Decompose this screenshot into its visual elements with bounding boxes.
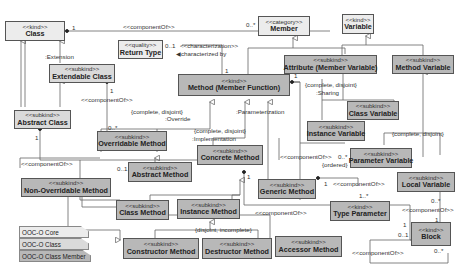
component-of-label: <<componentOf>> xyxy=(333,181,385,187)
multiplicity-label: 0..* xyxy=(431,198,440,204)
box-name: Class Variable xyxy=(349,110,398,118)
component-of-label: <<componentOf>> xyxy=(280,154,332,160)
legend-class-member: OOC-O Class Member xyxy=(19,250,91,262)
parameter-variable-box[interactable]: <<subkind>> Parameter Variable xyxy=(350,148,412,168)
instance-method-box[interactable]: <<subkind>> Instance Method xyxy=(177,199,240,219)
local-variable-box[interactable]: <<subkind>> Local Variable xyxy=(397,172,455,192)
box-name: Non-Overridable Method xyxy=(24,187,108,195)
multiplicity-label: 1..* xyxy=(359,193,368,199)
box-name: Method (Member Function) xyxy=(188,84,280,92)
box-name: Attribute (Member Variable) xyxy=(284,64,378,72)
box-name: Method Variable xyxy=(395,64,450,72)
disjoint-incomplete-label: {disjoint, incomplete} xyxy=(195,227,252,233)
abstract-class-box[interactable]: <<subkind>> Abstract Class xyxy=(14,110,71,129)
multiplicity-label: 1 xyxy=(435,217,438,223)
multiplicity-label: 0..1 xyxy=(117,166,127,172)
box-name: Class xyxy=(25,30,44,38)
characterized-by-text: characterized by xyxy=(181,50,226,57)
parameterization-label: :Parameterization xyxy=(236,109,285,115)
legend-label: OOC-O Class Member xyxy=(22,253,86,260)
box-name: Concrete Method xyxy=(201,154,260,162)
uml-diagram: <<kind>> Class <<subkind>> Extendable Cl… xyxy=(0,0,470,275)
destructor-method-box[interactable]: <<subkind>> Destructor Method xyxy=(202,238,272,259)
box-name: Constructor Method xyxy=(127,248,196,256)
method-variable-box[interactable]: <<subkind>> Method Variable xyxy=(392,55,454,74)
multiplicity-label: 0..* xyxy=(338,154,347,160)
multiplicity-label: 1 xyxy=(403,222,406,228)
box-name: Member xyxy=(270,25,298,33)
box-name: Destructor Method xyxy=(205,248,269,256)
multiplicity-label: 0..* xyxy=(434,248,443,254)
multiplicity-label: 1 xyxy=(72,25,75,31)
component-of-label: <<componentOf>> xyxy=(402,207,454,213)
multiplicity-label: 1 xyxy=(110,88,113,94)
box-name: Extendable Class xyxy=(52,73,112,81)
component-of-label: <<componentOf>> xyxy=(123,24,175,30)
extension-label: :Extension xyxy=(45,54,74,60)
complete-disjoint-label: {complete, disjoint} xyxy=(194,128,246,134)
instance-variable-box[interactable]: <<subkind>> Instance Variable xyxy=(307,121,365,141)
sharing-label: :Sharing xyxy=(316,90,339,96)
box-name: Return Type xyxy=(120,49,161,57)
characterization-label: <<characterization>> xyxy=(180,43,238,49)
box-name: Parameter Variable xyxy=(349,157,414,165)
class-variable-box[interactable]: <<subkind>> Class Variable xyxy=(347,101,399,120)
characterized-by-label: ◀characterized by xyxy=(176,51,226,57)
complete-disjoint-label: {complete, disjoint} xyxy=(392,131,444,137)
box-name: Abstract Method xyxy=(132,171,189,179)
override-label: :Override xyxy=(165,116,190,122)
box-name: Accessor Method xyxy=(279,246,339,254)
legend-label: OOC-O Core xyxy=(22,229,59,236)
member-box[interactable]: <<category>> Member xyxy=(258,16,310,36)
type-parameter-box[interactable]: <<kind>> Type Parameter xyxy=(330,201,390,221)
attribute-box[interactable]: <<subkind>> Attribute (Member Variable) xyxy=(284,55,377,74)
complete-disjoint-label: {complete, disjoint} xyxy=(305,82,357,88)
method-box[interactable]: <<kind>> Method (Member Function) xyxy=(178,74,290,96)
box-name: Variable xyxy=(344,23,372,31)
concrete-method-box[interactable]: <<subkind>> Concrete Method xyxy=(197,145,263,165)
implementation-label: :Implementation xyxy=(192,136,236,142)
block-box[interactable]: <<kind>> Block xyxy=(411,222,451,246)
box-name: Instance Method xyxy=(180,208,237,216)
box-name: Overridable Method xyxy=(98,140,166,148)
box-name: Local Variable xyxy=(402,181,450,189)
ordered-label: {ordered} xyxy=(322,162,347,168)
box-name: Abstract Class xyxy=(17,119,67,127)
accessor-method-box[interactable]: <<subkind>> Accessor Method xyxy=(275,236,342,257)
box-name: Instance Variable xyxy=(307,130,366,138)
box-name: Type Parameter xyxy=(333,210,386,218)
class-method-box[interactable]: <<subkind>> Class Method xyxy=(116,200,169,220)
component-of-label: <<componentOf>> xyxy=(352,250,404,256)
variable-box[interactable]: <<kind>> Variable xyxy=(342,14,374,34)
component-of-label: <<componentOf>> xyxy=(81,97,133,103)
legend-label: OOC-O Class xyxy=(22,241,61,248)
class-box[interactable]: <<kind>> Class xyxy=(5,21,65,41)
box-name: Class Method xyxy=(119,209,166,217)
multiplicity-label: 0..1 xyxy=(165,43,175,49)
multiplicity-label: 1 xyxy=(247,174,250,180)
return-type-box[interactable]: <<quality>> Return Type xyxy=(118,40,163,59)
non-overridable-method-box[interactable]: <<subkind>> Non-Overridable Method xyxy=(21,178,111,197)
multiplicity-label: 0..* xyxy=(246,22,255,28)
multiplicity-label: 1 xyxy=(324,181,327,187)
abstract-method-box[interactable]: <<subkind>> Abstract Method xyxy=(128,162,192,182)
multiplicity-label: 1 xyxy=(294,73,297,79)
multiplicity-label: 1 xyxy=(35,135,38,141)
constructor-method-box[interactable]: <<subkind>> Constructor Method xyxy=(123,238,199,259)
legend-class: OOC-O Class xyxy=(19,238,89,250)
multiplicity-label: 0..1 xyxy=(398,232,408,238)
component-of-label: <<componentOf>> xyxy=(21,161,73,167)
legend-core: OOC-O Core xyxy=(19,226,89,238)
component-of-label: <<componentOf>> xyxy=(255,210,307,216)
box-name: Block xyxy=(421,233,441,241)
generic-method-box[interactable]: <<subkind>> Generic Method xyxy=(258,179,316,199)
multiplicity-label: 1 xyxy=(225,68,228,74)
multiplicity-label: 0..* xyxy=(108,125,117,131)
box-name: Generic Method xyxy=(260,188,314,196)
extendable-class-box[interactable]: <<subkind>> Extendable Class xyxy=(49,64,115,83)
overridable-method-box[interactable]: <<subkind>> Overridable Method xyxy=(97,131,167,151)
